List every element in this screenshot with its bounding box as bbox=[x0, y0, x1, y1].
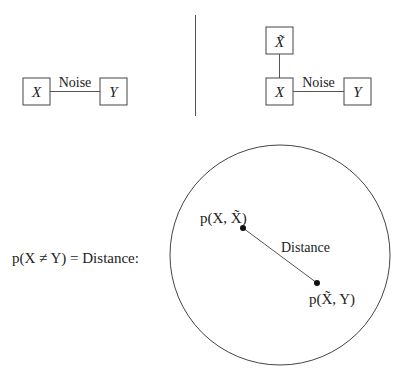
point2-label: p(X̃, Y) bbox=[309, 291, 355, 308]
left-graph: X Noise Y bbox=[23, 75, 127, 105]
edge-noise-right-label: Noise bbox=[302, 75, 335, 90]
distance-label: Distance bbox=[281, 240, 330, 255]
node-y-right-label: Y bbox=[353, 84, 363, 100]
point1-label: p(X, X̃) bbox=[200, 210, 247, 227]
node-x-left-label: X bbox=[31, 84, 42, 100]
diagram-canvas: X Noise Y X̃ X Noise Y p(X ≠ Y) = Distan… bbox=[0, 0, 404, 382]
node-y-left-label: Y bbox=[109, 84, 119, 100]
node-x-right-label: X bbox=[274, 84, 285, 100]
distance-line bbox=[243, 228, 317, 283]
point-p-xtilde-y bbox=[314, 280, 320, 286]
equation-label: p(X ≠ Y) = Distance: bbox=[12, 250, 139, 267]
right-graph: X̃ X Noise Y bbox=[266, 27, 371, 105]
edge-noise-left-label: Noise bbox=[59, 75, 92, 90]
node-xtilde-right-label: X̃ bbox=[274, 34, 285, 50]
